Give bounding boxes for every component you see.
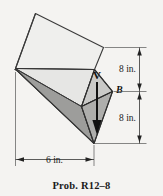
prism-top-face	[16, 14, 104, 70]
point-b-label: B	[115, 84, 123, 95]
dim-arrow-lower-top	[137, 93, 142, 100]
dim-label-lower-height: 8 in.	[119, 113, 136, 123]
dim-arrow-width-right	[86, 157, 94, 162]
point-b-marker: B	[115, 84, 123, 95]
dim-label-width: 6 in.	[46, 155, 63, 165]
velocity-label: V	[93, 69, 101, 81]
figure-caption: Prob. R12–8	[0, 180, 163, 191]
prism-diagram: V B 8 in. 8 in.	[0, 0, 163, 196]
problem-figure: V B 8 in. 8 in.	[0, 0, 163, 196]
dim-label-upper-height: 8 in.	[119, 64, 136, 74]
dim-arrow-width-left	[17, 157, 25, 162]
dim-arrow-lower-bottom	[137, 136, 142, 143]
dim-arrow-upper-top	[137, 49, 142, 56]
dim-arrow-upper-bottom	[137, 84, 142, 91]
